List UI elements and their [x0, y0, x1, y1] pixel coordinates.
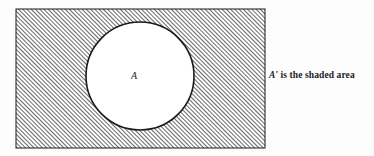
- set-a-circle: [86, 22, 194, 130]
- venn-diagram-figure: A A′ is the shaded area: [0, 0, 374, 156]
- set-a-label: A: [130, 70, 138, 81]
- caption-text: is the shaded area: [278, 70, 355, 80]
- complement-caption: A′ is the shaded area: [269, 70, 355, 80]
